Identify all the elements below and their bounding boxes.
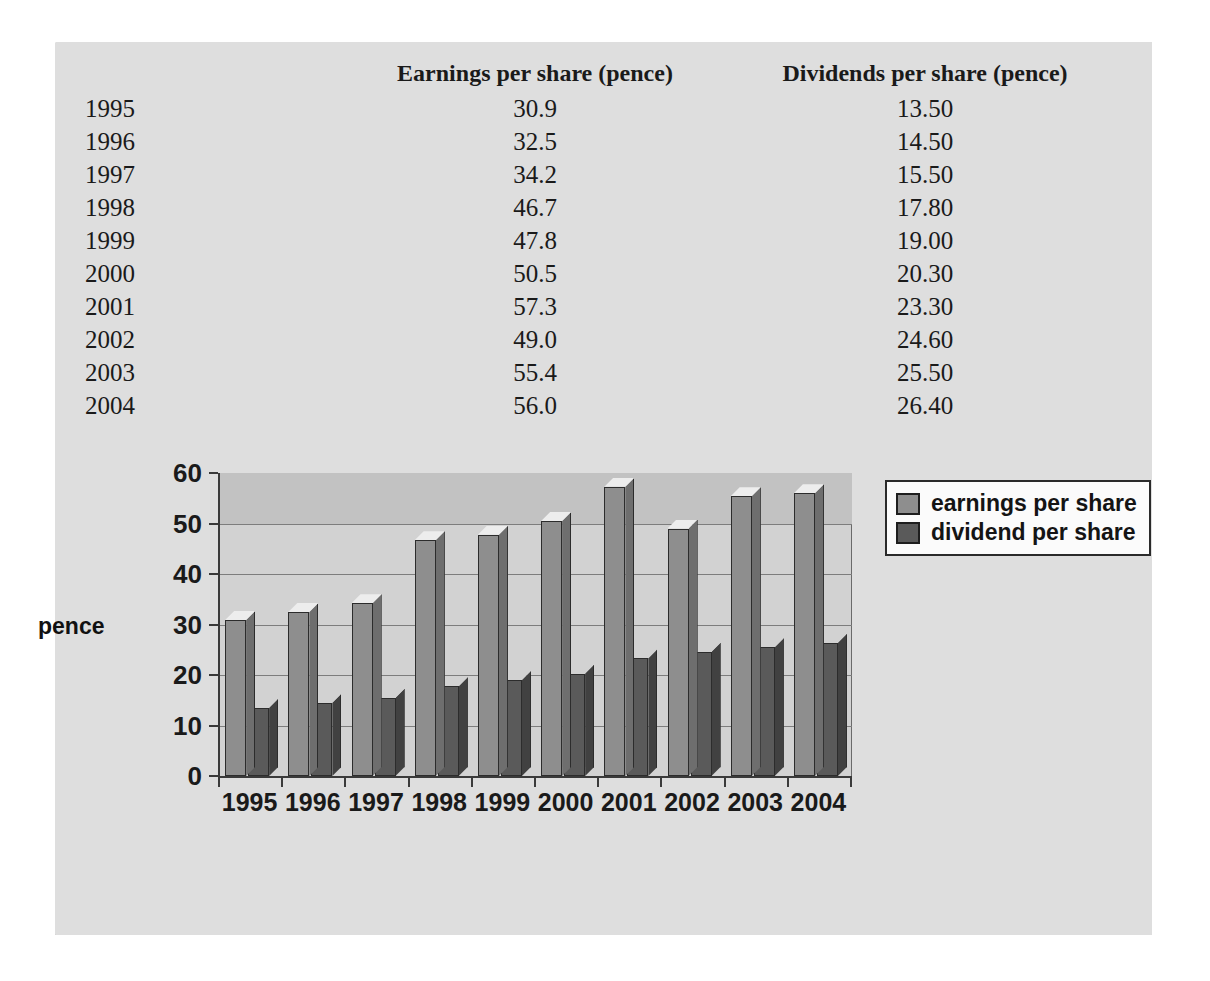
legend-item: dividend per share: [896, 518, 1137, 547]
cell-year: 2003: [55, 359, 355, 387]
bar-side-face: [775, 638, 784, 776]
bar-earnings-per-share-2000: [541, 521, 562, 776]
table-row: 200249.024.60: [55, 323, 1152, 356]
x-axis-tick-label: 2004: [787, 790, 850, 815]
table-body: 199530.913.50199632.514.50199734.215.501…: [55, 92, 1152, 422]
bar-side-face: [625, 478, 634, 776]
cell-dividend: 17.80: [715, 194, 1135, 222]
x-axis-tick-label: 2002: [660, 790, 723, 815]
table-header-row: Earnings per share (pence) Dividends per…: [55, 54, 1152, 92]
bar-side-face: [269, 699, 278, 776]
x-axis-tick-mark: [408, 778, 410, 787]
bar-side-face: [436, 531, 445, 776]
bar-earnings-per-share-1999: [478, 535, 499, 776]
cell-eps: 57.3: [355, 293, 715, 321]
y-axis-tick-label: 10: [142, 713, 202, 739]
y-axis-tick-label: 40: [142, 561, 202, 587]
bar-side-face: [585, 665, 594, 777]
cell-year: 1999: [55, 227, 355, 255]
legend-swatch: [896, 493, 920, 515]
bar-front-face: [415, 540, 436, 776]
cell-eps: 34.2: [355, 161, 715, 189]
data-table: Earnings per share (pence) Dividends per…: [55, 54, 1152, 422]
x-axis-tick-mark: [344, 778, 346, 787]
cell-year: 1997: [55, 161, 355, 189]
x-axis-tick-mark: [724, 778, 726, 787]
bar-earnings-per-share-1998: [415, 540, 436, 776]
bar-side-face: [752, 487, 761, 776]
bar-side-face: [689, 520, 698, 776]
cell-dividend: 23.30: [715, 293, 1135, 321]
bar-front-face: [668, 529, 689, 776]
x-axis-tick-mark: [534, 778, 536, 787]
cell-year: 2004: [55, 392, 355, 420]
y-axis-tick-mark: [209, 523, 218, 525]
bar-earnings-per-share-1996: [288, 612, 309, 776]
cell-eps: 46.7: [355, 194, 715, 222]
cell-eps: 47.8: [355, 227, 715, 255]
y-axis-tick-label: 30: [142, 612, 202, 638]
bar-side-face: [459, 677, 468, 776]
cell-dividend: 14.50: [715, 128, 1135, 156]
column-header-eps: Earnings per share (pence): [355, 60, 715, 87]
cell-dividend: 19.00: [715, 227, 1135, 255]
cell-eps: 30.9: [355, 95, 715, 123]
x-axis-tick-label: 1995: [218, 790, 281, 815]
legend-swatch: [896, 522, 920, 544]
cell-eps: 50.5: [355, 260, 715, 288]
x-axis-tick-mark: [787, 778, 789, 787]
cell-eps: 56.0: [355, 392, 715, 420]
bar-side-face: [373, 594, 382, 776]
bar-side-face: [712, 643, 721, 776]
legend-label: earnings per share: [931, 490, 1137, 517]
bar-front-face: [794, 493, 815, 776]
cell-dividend: 15.50: [715, 161, 1135, 189]
cell-year: 2002: [55, 326, 355, 354]
bar-front-face: [352, 603, 373, 776]
y-axis-tick-mark: [209, 775, 218, 777]
x-axis-tick-mark: [850, 778, 852, 787]
cell-eps: 55.4: [355, 359, 715, 387]
cell-year: 2000: [55, 260, 355, 288]
bar-earnings-per-share-2002: [668, 529, 689, 776]
x-axis-tick-mark: [471, 778, 473, 787]
table-row: 200456.026.40: [55, 389, 1152, 422]
bar-side-face: [309, 603, 318, 776]
bar-side-face: [648, 649, 657, 776]
bar-front-face: [731, 496, 752, 776]
bar-front-face: [541, 521, 562, 776]
column-header-dividends: Dividends per share (pence): [715, 60, 1135, 87]
bar-front-face: [604, 487, 625, 776]
bar-side-face: [499, 526, 508, 776]
scanned-page-panel: Earnings per share (pence) Dividends per…: [55, 42, 1152, 935]
x-axis-tick-label: 1998: [408, 790, 471, 815]
y-axis-title: pence: [38, 613, 104, 640]
bar-side-face: [562, 512, 571, 776]
x-axis-tick-mark: [597, 778, 599, 787]
y-axis-tick-mark: [209, 472, 218, 474]
bar-front-face: [225, 620, 246, 776]
x-axis-tick-mark: [218, 778, 220, 787]
y-axis-tick-label: 50: [142, 511, 202, 537]
cell-dividend: 24.60: [715, 326, 1135, 354]
y-axis-tick-label: 60: [142, 460, 202, 486]
cell-dividend: 20.30: [715, 260, 1135, 288]
cell-dividend: 13.50: [715, 95, 1135, 123]
table-row: 199632.514.50: [55, 125, 1152, 158]
table-row: 200355.425.50: [55, 356, 1152, 389]
x-axis-tick-mark: [281, 778, 283, 787]
y-axis-tick-mark: [209, 573, 218, 575]
x-axis-tick-label: 1999: [471, 790, 534, 815]
bar-chart: pence 0102030405060 19951996199719981999…: [55, 452, 1152, 922]
x-axis-tick-label: 2000: [534, 790, 597, 815]
table-row: 199947.819.00: [55, 224, 1152, 257]
bar-side-face: [838, 634, 847, 776]
bar-side-face: [522, 671, 531, 776]
table-row: 199734.215.50: [55, 158, 1152, 191]
bar-earnings-per-share-1995: [225, 620, 246, 776]
cell-year: 2001: [55, 293, 355, 321]
legend-item: earnings per share: [896, 489, 1137, 518]
y-axis-tick-mark: [209, 624, 218, 626]
x-axis-tick-label: 2001: [597, 790, 660, 815]
bar-front-face: [288, 612, 309, 776]
